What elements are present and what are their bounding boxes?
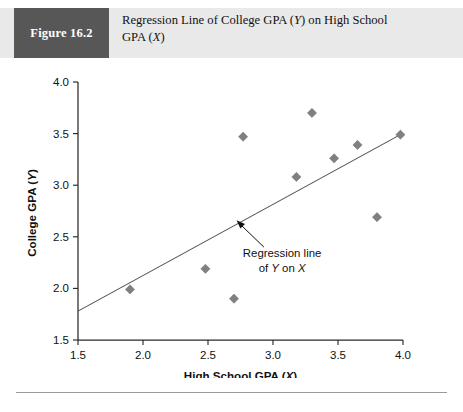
bottom-divider [16, 392, 447, 393]
y-tick-label: 2.5 [53, 231, 69, 243]
data-point [201, 264, 210, 273]
x-tick-label: 3.0 [265, 349, 281, 361]
data-point [292, 172, 301, 181]
data-point [125, 285, 134, 294]
svg-text:High School GPA (X): High School GPA (X) [184, 369, 298, 378]
y-tick-label: 4.0 [53, 76, 69, 88]
data-point [307, 108, 316, 117]
annotation-label: Regression line of Y on X [243, 247, 322, 274]
data-point [372, 213, 381, 222]
data-point [239, 132, 248, 141]
chart-canvas: College GPA (Y) 1.52.02.53.03.54.0 1.52.… [0, 58, 463, 378]
y-tick-label: 2.0 [53, 282, 69, 294]
annotation-line-1: Regression line [243, 247, 322, 259]
y-axis-ticks: 1.52.02.53.03.54.0 [53, 76, 78, 346]
x-axis-ticks: 1.52.02.53.03.54.0 [70, 340, 411, 361]
scatter-plot: College GPA (Y) 1.52.02.53.03.54.0 1.52.… [0, 58, 463, 378]
data-point [353, 140, 362, 149]
figure-header: Figure 16.2 Regression Line of College G… [0, 8, 463, 58]
annotation-arrow [237, 220, 264, 247]
data-point [330, 154, 339, 163]
data-point [396, 130, 405, 139]
x-tick-label: 2.5 [200, 349, 216, 361]
figure-number-box: Figure 16.2 [14, 8, 109, 58]
x-axis-title: High School GPA (X) [184, 369, 298, 378]
x-tick-label: 4.0 [395, 349, 411, 361]
x-tick-label: 2.0 [135, 349, 151, 361]
annotation-line-2: of Y on X [259, 262, 306, 274]
figure-caption-line-2: GPA (X) [122, 30, 165, 44]
svg-text:College GPA (Y): College GPA (Y) [25, 169, 38, 257]
y-axis-title: College GPA (Y) [25, 169, 38, 257]
figure-caption-line-1: Regression Line of College GPA (Y) on Hi… [122, 13, 387, 27]
y-tick-label: 3.0 [53, 179, 69, 191]
y-tick-label: 1.5 [53, 334, 69, 346]
figure-number-label: Figure 16.2 [30, 26, 92, 41]
figure-caption: Regression Line of College GPA (Y) on Hi… [109, 8, 463, 58]
y-tick-label: 3.5 [53, 128, 69, 140]
data-point [229, 294, 238, 303]
x-tick-label: 1.5 [70, 349, 86, 361]
x-tick-label: 3.5 [330, 349, 346, 361]
